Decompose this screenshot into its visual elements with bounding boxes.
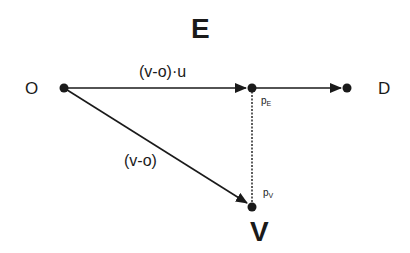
point-d: [343, 84, 352, 93]
label-point-d: D: [378, 80, 390, 97]
label-point-o: O: [25, 80, 38, 97]
point-pe: [248, 84, 257, 93]
label-point-pv: pV: [263, 188, 273, 199]
edge-o-to-pv: [64, 88, 247, 203]
point-o: [60, 84, 69, 93]
label-point-pe: pE: [261, 96, 271, 107]
point-pv: [248, 203, 257, 212]
label-e-title: E: [191, 15, 210, 43]
label-v-title: V: [250, 218, 269, 246]
label-projection: (v-o)·u: [139, 64, 186, 80]
label-vector: (v-o): [124, 153, 157, 169]
